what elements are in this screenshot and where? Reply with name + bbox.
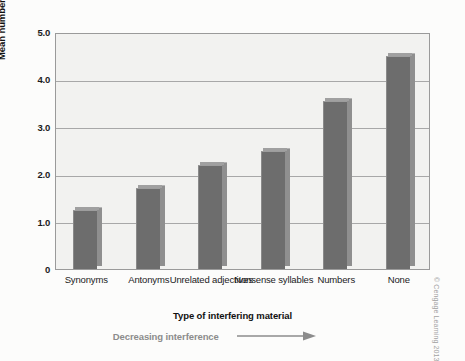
right-arrow-icon: [237, 328, 317, 346]
gridline: [56, 176, 429, 177]
interference-label: Decreasing interference: [113, 331, 219, 342]
bar-top-face: [75, 207, 99, 210]
bar-top-face: [325, 98, 349, 101]
bar-side-face: [97, 207, 102, 266]
bar: [261, 151, 291, 270]
gridline: [56, 128, 429, 129]
y-axis-tick-label: 3.0: [20, 122, 50, 133]
y-axis-tick-label: 2.0: [20, 169, 50, 180]
plot-area: [55, 33, 430, 270]
bar-side-face: [222, 162, 227, 266]
bar: [198, 165, 228, 269]
y-axis-tick-label: 4.0: [20, 74, 50, 85]
bar-front-face: [323, 101, 347, 269]
bar-top-face: [200, 162, 224, 165]
figure-container: Mean number of test items recalled 01.02…: [0, 0, 465, 361]
gridline: [56, 81, 429, 82]
x-axis-title: Type of interfering material: [0, 310, 465, 321]
copyright-notice: © Cengage Learning 2013: [433, 277, 440, 361]
bar: [323, 101, 353, 269]
bar-side-face: [410, 53, 415, 266]
bar: [73, 210, 103, 269]
bar: [136, 188, 166, 269]
interference-annotation: Decreasing interference: [0, 327, 430, 346]
bar: [386, 56, 416, 269]
y-axis-tick-label: 5.0: [20, 27, 50, 38]
bar-top-face: [263, 148, 287, 151]
bar-front-face: [261, 151, 285, 270]
x-axis-tick-label: None: [356, 274, 442, 286]
bar-front-face: [73, 210, 97, 269]
bar-front-face: [136, 188, 160, 269]
gridline: [56, 223, 429, 224]
bar-side-face: [285, 148, 290, 267]
y-axis-tick-label: 1.0: [20, 217, 50, 228]
bar-front-face: [386, 56, 410, 269]
bar-side-face: [347, 98, 352, 266]
bar-top-face: [388, 53, 412, 56]
bar-side-face: [160, 185, 165, 266]
bar-front-face: [198, 165, 222, 269]
bar-top-face: [138, 185, 162, 188]
y-axis-title: Mean number of test items recalled: [0, 0, 7, 60]
